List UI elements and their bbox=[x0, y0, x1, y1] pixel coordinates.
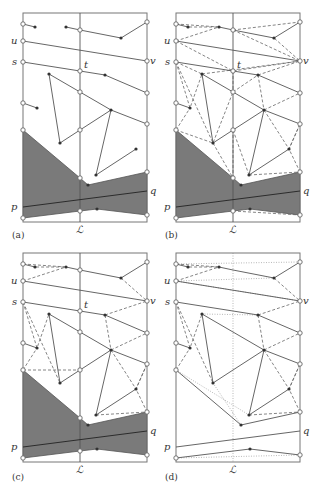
label-t: t bbox=[237, 59, 242, 70]
label-q: q bbox=[150, 425, 156, 436]
label-u: u bbox=[11, 35, 17, 46]
label-u: u bbox=[164, 35, 170, 46]
label-q: q bbox=[303, 185, 309, 196]
label-L: ℒ bbox=[76, 224, 84, 235]
label-v: v bbox=[150, 295, 156, 306]
caption-b: (b) bbox=[165, 230, 178, 240]
label-s: s bbox=[12, 56, 17, 67]
label-u: u bbox=[164, 275, 170, 286]
label-v: v bbox=[303, 295, 309, 306]
panel-b bbox=[174, 13, 302, 222]
label-q: q bbox=[303, 425, 309, 436]
label-s: s bbox=[165, 56, 170, 67]
label-v: v bbox=[303, 55, 309, 66]
label-t: t bbox=[84, 299, 89, 310]
label-L: ℒ bbox=[229, 464, 237, 475]
caption-d: (d) bbox=[165, 472, 178, 482]
label-p: p bbox=[11, 201, 18, 212]
panel-d bbox=[174, 253, 302, 462]
caption-c: (c) bbox=[12, 472, 24, 482]
figure-canvas: u s t v p q ℒ (a) u s t v p q ℒ (b) u s … bbox=[0, 0, 320, 494]
label-s: s bbox=[165, 296, 170, 307]
label-v: v bbox=[150, 55, 156, 66]
label-t: t bbox=[84, 59, 89, 70]
label-s: s bbox=[12, 296, 17, 307]
label-p: p bbox=[164, 441, 171, 452]
label-u: u bbox=[11, 275, 17, 286]
label-L: ℒ bbox=[229, 224, 237, 235]
panel-a bbox=[21, 13, 149, 222]
label-q: q bbox=[150, 185, 156, 196]
label-p: p bbox=[11, 441, 18, 452]
panel-c bbox=[21, 253, 149, 462]
label-L: ℒ bbox=[76, 464, 84, 475]
caption-a: (a) bbox=[12, 230, 24, 240]
label-p: p bbox=[164, 201, 171, 212]
